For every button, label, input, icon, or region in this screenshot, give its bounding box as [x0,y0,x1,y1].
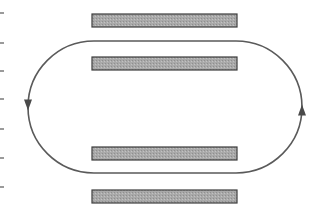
text-fragment [0,128,4,130]
text-fragment [0,12,4,14]
text-fragment [0,98,4,100]
bar-3 [92,147,237,160]
arrow-down-icon [24,100,32,111]
bar-2 [92,57,237,70]
text-fragment [0,157,4,159]
diagram-canvas [0,0,322,224]
text-fragment [0,42,4,44]
text-fragment [0,186,4,188]
text-fragment [0,70,4,72]
bar-1 [92,14,237,27]
bar-4 [92,190,237,203]
arrow-up-icon [298,105,306,116]
bars-group [92,14,237,203]
